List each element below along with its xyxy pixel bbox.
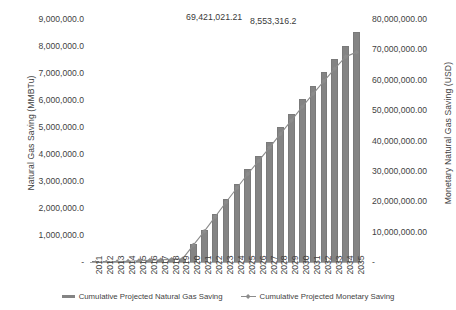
x-axis-slot: 2026 bbox=[253, 265, 264, 291]
x-axis-slot: 2031 bbox=[308, 265, 319, 291]
x-axis-slot: 2030 bbox=[297, 265, 308, 291]
y-axis-right-tick: 30,000,000.00 bbox=[372, 167, 427, 176]
legend-bar-swatch-icon bbox=[62, 295, 75, 298]
x-axis-slot: 2013 bbox=[112, 265, 123, 291]
y-axis-left-tick: 3,000,000.0 bbox=[39, 177, 84, 186]
y-axis-left-tick: 1,000,000.0 bbox=[39, 231, 84, 240]
y-axis-left-tick: 6,000,000.0 bbox=[39, 96, 84, 105]
y-axis-right-tick: 50,000,000.00 bbox=[372, 106, 427, 115]
y-axis-left-tick: - bbox=[81, 258, 84, 267]
x-axis-slot: 2032 bbox=[318, 265, 329, 291]
y-axis-left-tick: 8,000,000.0 bbox=[39, 42, 84, 51]
y-axis-right-tick: 40,000,000.00 bbox=[372, 137, 427, 146]
bar-value-label: 8,553,316.2 bbox=[250, 16, 296, 26]
x-axis-slot: 2028 bbox=[275, 265, 286, 291]
x-axis-slot: 2018 bbox=[166, 265, 177, 291]
legend-item-line[interactable]: Cumulative Projected Monetary Saving bbox=[241, 292, 395, 301]
y-axis-left-tick: 5,000,000.0 bbox=[39, 123, 84, 132]
y-axis-left-tick: 4,000,000.0 bbox=[39, 150, 84, 159]
chart-legend: Cumulative Projected Natural Gas Saving … bbox=[0, 292, 456, 301]
legend-line-swatch-icon bbox=[241, 294, 256, 300]
legend-item-bar-label: Cumulative Projected Natural Gas Saving bbox=[79, 292, 223, 301]
y-axis-right-tick: 10,000,000.00 bbox=[372, 228, 427, 237]
y-axis-right-tick: 80,000,000.00 bbox=[372, 15, 427, 24]
x-axis-slot: 2019 bbox=[177, 265, 188, 291]
y-axis-left-tick: 9,000,000.0 bbox=[39, 15, 84, 24]
x-axis-slot: 2011 bbox=[90, 265, 101, 291]
x-axis-tick-labels: 2011201220132014201520162017201820192020… bbox=[90, 265, 362, 291]
x-axis-slot: 2025 bbox=[242, 265, 253, 291]
x-axis-slot: 2024 bbox=[231, 265, 242, 291]
y-axis-right-ticks: 80,000,000.0070,000,000.0060,000,000.005… bbox=[369, 0, 439, 310]
y-axis-right-title: Monetary Natural Gas Saving (USD) bbox=[443, 43, 453, 223]
x-axis-slot: 2021 bbox=[199, 265, 210, 291]
x-axis-slot: 2027 bbox=[264, 265, 275, 291]
y-axis-left-tick: 2,000,000.0 bbox=[39, 204, 84, 213]
x-axis-tick-2035: 2035 bbox=[357, 255, 366, 274]
x-axis-slot: 2022 bbox=[210, 265, 221, 291]
y-axis-left-ticks: 9,000,000.08,000,000.07,000,000.06,000,0… bbox=[18, 0, 88, 310]
x-axis-slot: 2034 bbox=[340, 265, 351, 291]
line-value-label: 69,421,021.21 bbox=[186, 12, 242, 22]
x-axis-slot: 2035 bbox=[351, 265, 362, 291]
y-axis-right-tick: 70,000,000.00 bbox=[372, 45, 427, 54]
x-axis-slot: 2020 bbox=[188, 265, 199, 291]
data-labels-layer: 8,553,316.2 69,421,021.21 bbox=[90, 20, 362, 263]
legend-item-bar[interactable]: Cumulative Projected Natural Gas Saving bbox=[62, 292, 223, 301]
y-axis-right-tick: 60,000,000.00 bbox=[372, 76, 427, 85]
x-axis-slot: 2017 bbox=[155, 265, 166, 291]
x-axis-slot: 2012 bbox=[101, 265, 112, 291]
x-axis-slot: 2015 bbox=[134, 265, 145, 291]
y-axis-left-tick: 7,000,000.0 bbox=[39, 69, 84, 78]
x-axis-slot: 2023 bbox=[221, 265, 232, 291]
combo-chart: Natural Gas Saving (MMBTu) Monetary Natu… bbox=[0, 0, 456, 310]
y-axis-right-tick: - bbox=[372, 258, 375, 267]
x-axis-slot: 2016 bbox=[144, 265, 155, 291]
plot-area: 8,553,316.2 69,421,021.21 bbox=[90, 20, 362, 263]
y-axis-right-tick: 20,000,000.00 bbox=[372, 197, 427, 206]
x-axis-slot: 2029 bbox=[286, 265, 297, 291]
x-axis-slot: 2033 bbox=[329, 265, 340, 291]
x-axis-slot: 2014 bbox=[123, 265, 134, 291]
legend-item-line-label: Cumulative Projected Monetary Saving bbox=[260, 292, 395, 301]
